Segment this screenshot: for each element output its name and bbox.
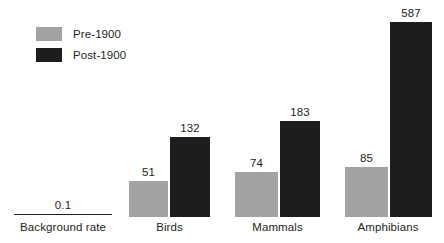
plot-area: 51 132 74 183 85 587 0.1 Background rate… bbox=[0, 0, 444, 243]
bar-amphibians-post-1900 bbox=[390, 22, 432, 217]
background-rate-value: 0.1 bbox=[14, 199, 112, 211]
background-rate-line bbox=[14, 214, 112, 215]
bar-value-amphibians-post-1900: 587 bbox=[390, 7, 432, 19]
bar-value-birds-pre-1900: 51 bbox=[129, 166, 168, 178]
bar-mammals-pre-1900 bbox=[235, 172, 278, 217]
bar-chart: Pre-1900 Post-1900 51 132 74 183 85 587 … bbox=[0, 0, 444, 243]
bar-value-amphibians-pre-1900: 85 bbox=[345, 152, 388, 164]
category-label-birds: Birds bbox=[129, 221, 210, 233]
bar-birds-pre-1900 bbox=[129, 181, 168, 217]
bar-value-mammals-post-1900: 183 bbox=[280, 106, 320, 118]
bar-mammals-post-1900 bbox=[280, 121, 320, 217]
bar-value-birds-post-1900: 132 bbox=[170, 122, 210, 134]
bar-birds-post-1900 bbox=[170, 137, 210, 217]
bar-amphibians-pre-1900 bbox=[345, 167, 388, 217]
category-label-mammals: Mammals bbox=[235, 221, 320, 233]
background-rate-label: Background rate bbox=[8, 221, 118, 233]
category-label-amphibians: Amphibians bbox=[342, 221, 434, 233]
bar-value-mammals-pre-1900: 74 bbox=[235, 157, 278, 169]
